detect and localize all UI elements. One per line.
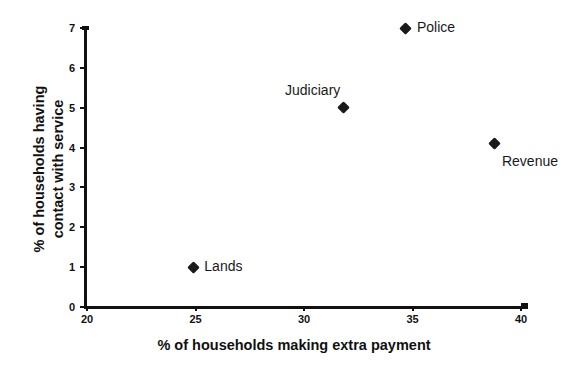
data-point-marker[interactable] [400,22,413,35]
data-point-label: Revenue [502,153,558,169]
data-point-marker[interactable] [337,101,350,114]
x-tick-label: 25 [181,313,211,325]
data-point-label: Lands [204,258,242,274]
y-tick-mark [80,27,86,29]
y-tick-mark [80,107,86,109]
x-tick-mark [520,306,522,311]
y-tick-mark [80,266,86,268]
data-point-marker[interactable] [187,261,200,274]
y-axis-title-line2: contact with service [49,24,68,314]
x-tick-label: 20 [72,313,102,325]
x-tick-mark [412,306,414,311]
x-axis-title: % of households making extra payment [0,337,588,353]
y-tick-mark [80,186,86,188]
x-tick-mark [86,306,88,311]
y-axis-title-line1: % of households having [30,24,49,314]
y-tick-mark [80,67,86,69]
x-axis-line [85,306,528,309]
x-tick-label: 40 [506,313,536,325]
x-axis-arrow-cap [521,303,528,309]
scatter-chart: 01234567 2025303540 LandsJudiciaryPolice… [0,0,588,370]
x-tick-label: 35 [398,313,428,325]
data-point-label: Police [417,19,455,35]
data-point-label: Judiciary [285,82,340,98]
x-tick-label: 30 [289,313,319,325]
data-point-marker[interactable] [489,137,502,150]
y-tick-mark [80,147,86,149]
y-axis-title: % of households having contact with serv… [30,24,68,314]
y-tick-mark [80,226,86,228]
x-tick-mark [195,306,197,311]
x-tick-mark [303,306,305,311]
